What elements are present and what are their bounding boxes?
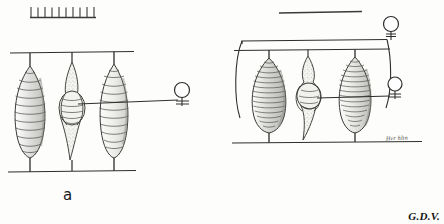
bracket-right [386, 40, 391, 109]
artist-signature: G.D.V. [408, 210, 440, 222]
bulb-icon [388, 77, 402, 91]
cocoon-middle [59, 52, 85, 171]
cocoon-left [15, 53, 46, 172]
support-line-top [234, 49, 390, 51]
panel-a-label: a [63, 186, 72, 204]
bracket-left [236, 41, 242, 118]
cocoon-right [99, 52, 128, 172]
bulb-probe-top [242, 17, 399, 45]
panel-b-drawing [222, 0, 444, 224]
handwritten-annotation: Hvr hltn [386, 135, 408, 142]
ruler-scale-bar [30, 7, 96, 18]
panel-b: b [222, 0, 444, 224]
illustration-plate: a [0, 0, 444, 224]
bulb-icon [175, 83, 190, 98]
cocoon-left [252, 50, 286, 143]
support-line-bottom [232, 142, 422, 144]
bulb-probe-right [78, 83, 190, 107]
plain-scale-bar [279, 12, 362, 14]
cocoon-right [339, 49, 371, 142]
bulb-icon [384, 17, 399, 32]
cocoon-middle [295, 50, 324, 141]
panel-a: a [0, 0, 222, 224]
panel-a-drawing [0, 0, 222, 224]
